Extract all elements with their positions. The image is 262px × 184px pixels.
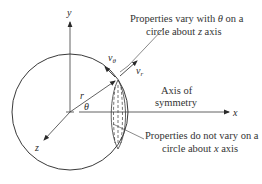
top-annotation-line1: Properties vary with θ on a bbox=[130, 13, 244, 24]
bottom-annotation-line2: circle about x axis bbox=[162, 143, 238, 154]
hidden-line-2 bbox=[121, 87, 123, 143]
axis-of-symmetry-line2: symmetry bbox=[155, 97, 198, 108]
v-r-arrow bbox=[120, 61, 137, 76]
z-axis bbox=[44, 112, 70, 140]
v-theta-label: vθ bbox=[108, 52, 116, 65]
z-axis-label: z bbox=[34, 142, 39, 153]
x-axis-label: x bbox=[232, 107, 238, 118]
radius-label: r bbox=[80, 90, 84, 101]
v-r-label: vr bbox=[136, 65, 143, 78]
axis-of-symmetry-line1: Axis of bbox=[161, 85, 193, 96]
theta-label: θ bbox=[84, 101, 89, 112]
bottom-annotation-line1: Properties do not vary on a bbox=[145, 130, 259, 141]
v-theta-arrow bbox=[105, 67, 115, 77]
radius-vector bbox=[70, 81, 115, 112]
y-axis-label: y bbox=[66, 7, 72, 18]
top-annotation-line2: circle about z axis bbox=[146, 26, 222, 37]
sphere-symmetry-diagram: y x z r θ vθ vr Properties vary with θ o… bbox=[0, 0, 262, 184]
hidden-line-3 bbox=[114, 87, 116, 143]
